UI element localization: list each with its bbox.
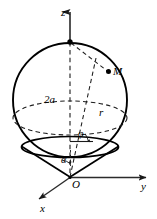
radius-vector-r-line bbox=[70, 58, 96, 177]
diameter-label: 2a bbox=[44, 94, 55, 105]
z-axis-label: z bbox=[61, 7, 65, 18]
origin-label: O bbox=[72, 179, 80, 190]
x-axis-line bbox=[39, 178, 70, 200]
north-pole-point bbox=[67, 39, 72, 44]
point-M-dot bbox=[106, 69, 111, 74]
cone-half-angle-label: α bbox=[61, 155, 66, 165]
azimuth-angle-label: φ bbox=[78, 129, 84, 139]
x-axis-label: x bbox=[40, 203, 45, 214]
radius-vector-label: r bbox=[99, 107, 103, 118]
point-M-label: M bbox=[113, 66, 122, 77]
y-axis-label: y bbox=[141, 181, 146, 192]
figure-container: z M 2a r φ α O y x bbox=[0, 0, 157, 219]
